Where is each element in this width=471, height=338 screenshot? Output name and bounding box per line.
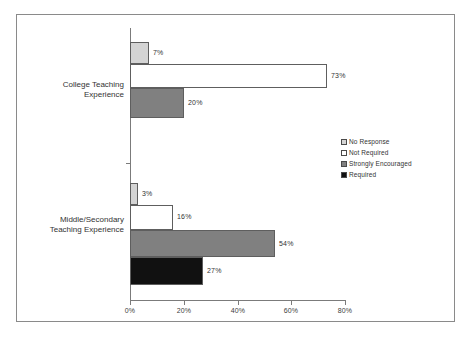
axis-tick-label-1: 20%	[177, 307, 192, 314]
bar-middle-required	[130, 257, 203, 285]
bar-college-no-response	[130, 42, 149, 64]
legend-label-required: Required	[349, 171, 376, 178]
axis-tick-4	[345, 301, 346, 305]
bar-label-college-strongly-encouraged: 20%	[188, 99, 203, 106]
bar-label-college-not-required: 73%	[331, 72, 346, 79]
bar-label-middle-required: 27%	[207, 267, 222, 274]
legend-item-required[interactable]: Required	[341, 169, 412, 180]
legend-swatch-strongly-encouraged-icon	[341, 161, 347, 167]
bar-middle-strongly-encouraged	[130, 230, 275, 257]
category-label-college: College Teaching Experience	[14, 80, 124, 100]
legend-label-no-response: No Response	[349, 138, 389, 145]
bar-middle-not-required	[130, 205, 173, 230]
axis-tick-2	[238, 301, 239, 305]
legend-label-strongly-encouraged: Strongly Encouraged	[349, 160, 412, 167]
chart-legend: No Response Not Required Strongly Encour…	[341, 136, 412, 180]
bar-label-middle-no-response: 3%	[142, 190, 153, 197]
bar-college-strongly-encouraged	[130, 88, 184, 118]
category-label-middle-secondary: Middle/Secondary Teaching Experience	[14, 215, 124, 235]
bar-label-middle-not-required: 16%	[177, 213, 192, 220]
legend-item-strongly-encouraged[interactable]: Strongly Encouraged	[341, 158, 412, 169]
bar-college-not-required	[130, 64, 327, 88]
legend-item-not-required[interactable]: Not Required	[341, 147, 412, 158]
axis-tick-3	[291, 301, 292, 305]
legend-swatch-no-response-icon	[341, 139, 347, 145]
axis-tick-label-3: 60%	[284, 307, 299, 314]
bar-label-middle-strongly-encouraged: 54%	[279, 240, 294, 247]
axis-tick-0	[130, 301, 131, 305]
category-separator-tick	[126, 163, 130, 164]
axis-tick-label-4: 80%	[338, 307, 353, 314]
legend-label-not-required: Not Required	[349, 149, 389, 156]
axis-tick-label-2: 40%	[231, 307, 246, 314]
bar-middle-no-response	[130, 183, 138, 205]
axis-tick-1	[184, 301, 185, 305]
axis-tick-label-0: 0%	[125, 307, 136, 314]
chart-figure: 0% 20% 40% 60% 80% College Teaching Expe…	[0, 0, 471, 338]
bar-label-college-no-response: 7%	[153, 49, 164, 56]
legend-item-no-response[interactable]: No Response	[341, 136, 412, 147]
legend-swatch-required-icon	[341, 172, 347, 178]
legend-swatch-not-required-icon	[341, 150, 347, 156]
